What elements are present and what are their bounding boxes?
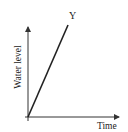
series-label-y: Y <box>69 10 76 21</box>
line-chart: Y Time Water level <box>0 0 128 132</box>
y-axis-label: Water level <box>13 45 23 89</box>
x-axis-label: Time <box>97 121 117 131</box>
series-line-y <box>28 25 68 117</box>
